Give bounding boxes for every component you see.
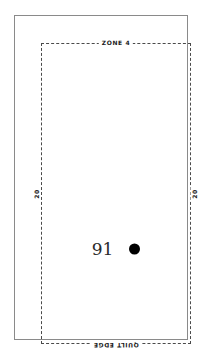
diagram-canvas: ZONE 4 QUILT EDGE 20 20 91 (0, 0, 201, 353)
zone-label-left: 20 (33, 187, 41, 201)
zone-border-left (41, 43, 42, 344)
filled-circle-marker-icon (129, 244, 140, 255)
zone-label-right: 20 (191, 187, 199, 201)
center-marker-group: 91 (41, 241, 191, 258)
quilt-zone-boundary: ZONE 4 QUILT EDGE 20 20 91 (41, 43, 191, 344)
marker-number-label: 91 (92, 241, 114, 258)
zone-label-top: ZONE 4 (99, 39, 133, 47)
outer-frame: ZONE 4 QUILT EDGE 20 20 91 (14, 15, 188, 340)
quilt-edge-label-bottom: QUILT EDGE (90, 341, 141, 349)
